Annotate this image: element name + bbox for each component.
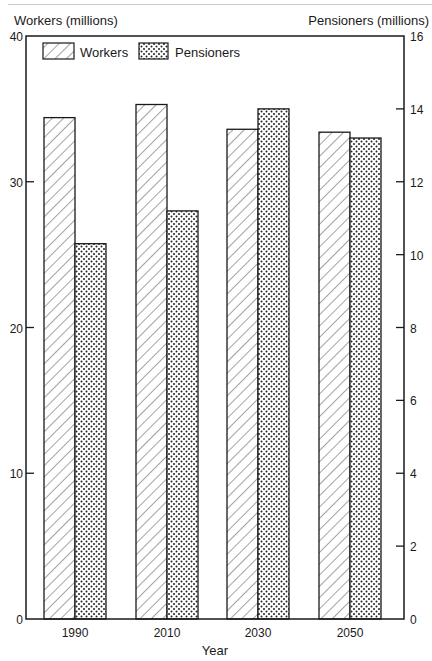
bar-pensioners-2010 <box>167 211 198 619</box>
x-tick-label: 2050 <box>337 626 364 640</box>
bar-pensioners-2050 <box>350 138 381 619</box>
right-tick-label: 16 <box>410 30 424 44</box>
left-tick-label: 0 <box>16 613 23 627</box>
left-tick-label: 30 <box>10 176 24 190</box>
legend-workers-label: Workers <box>80 45 129 60</box>
legend-pensioners-label: Pensioners <box>175 45 241 60</box>
right-axis-ticks: 0246810121416 <box>396 30 424 627</box>
bar-workers-1990 <box>44 118 75 619</box>
x-axis-labels: 1990201020302050 <box>62 626 364 640</box>
left-axis-ticks: 010203040 <box>10 30 34 627</box>
left-tick-label: 10 <box>10 467 24 481</box>
right-tick-label: 2 <box>410 540 417 554</box>
bar-pensioners-2030 <box>258 109 289 619</box>
left-tick-label: 40 <box>10 30 24 44</box>
bar-workers-2030 <box>227 129 258 619</box>
left-tick-label: 20 <box>10 322 24 336</box>
legend-pensioners-swatch <box>139 43 168 59</box>
bar-workers-2050 <box>319 132 350 619</box>
x-tick-label: 2010 <box>154 626 181 640</box>
x-axis-title: Year <box>202 643 229 658</box>
right-tick-label: 4 <box>410 467 417 481</box>
x-tick-label: 1990 <box>62 626 89 640</box>
bars-group <box>44 105 381 619</box>
bar-chart: 010203040 0246810121416 1990201020302050… <box>0 0 432 661</box>
bar-workers-2010 <box>136 105 167 619</box>
right-tick-label: 6 <box>410 394 417 408</box>
legend-workers-swatch <box>43 43 74 59</box>
legend: Workers Pensioners <box>43 43 241 60</box>
x-tick-label: 2030 <box>245 626 272 640</box>
bar-pensioners-1990 <box>75 244 106 619</box>
right-tick-label: 0 <box>410 613 417 627</box>
right-tick-label: 8 <box>410 322 417 336</box>
right-tick-label: 14 <box>410 103 424 117</box>
right-tick-label: 10 <box>410 249 424 263</box>
right-tick-label: 12 <box>410 176 424 190</box>
